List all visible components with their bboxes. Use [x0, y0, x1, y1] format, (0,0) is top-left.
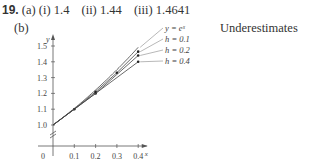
- y-tick-label: 1.3: [37, 74, 47, 83]
- data-point: [137, 61, 140, 64]
- euler-method-chart: yx1.01.11.21.31.41.500.10.20.30.4y = eˣh…: [0, 0, 311, 162]
- x-tick-label: 0.3: [112, 152, 122, 161]
- x-axis-arrow-icon: [142, 144, 148, 148]
- x-axis-label: x: [144, 150, 149, 158]
- euler-h01-line: [53, 52, 138, 125]
- x-tick-label: 0.4: [133, 152, 143, 161]
- exp-curve: [53, 47, 138, 125]
- x-tick-label: 0.1: [69, 152, 79, 161]
- annotation-leader: [140, 50, 163, 55]
- y-tick-label: 1.4: [37, 58, 47, 67]
- y-tick-label: 1.5: [37, 42, 47, 51]
- annotation-leader: [140, 28, 163, 47]
- series-annotation: h = 0.1: [165, 34, 190, 44]
- annotation-leader: [140, 61, 163, 62]
- y-tick-label: 1.1: [37, 105, 47, 114]
- data-point: [137, 54, 140, 57]
- x-tick-label: 0.2: [91, 152, 101, 161]
- data-point: [137, 50, 140, 53]
- series-annotation: h = 0.2: [165, 45, 191, 55]
- euler-h04-line: [53, 62, 138, 125]
- y-tick-label: 1.2: [37, 89, 47, 98]
- annotation-leader: [140, 39, 163, 52]
- y-tick-label: 1.0: [37, 121, 47, 130]
- series-annotation: y = eˣ: [164, 23, 186, 33]
- y-axis-arrow-icon: [51, 34, 55, 40]
- series-annotation: h = 0.4: [165, 56, 191, 66]
- x-tick-label: 0: [41, 152, 45, 161]
